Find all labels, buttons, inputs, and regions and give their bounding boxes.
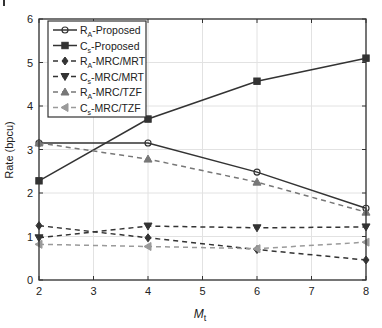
x-tick-label: 7 (308, 285, 314, 297)
y-tick-label: 0 (27, 274, 33, 286)
y-tick-label: 2 (27, 187, 33, 199)
legend: RA-ProposedCs-ProposedRA-MRC/MRTCs-MRC/M… (48, 21, 146, 117)
y-tick-label: 4 (27, 100, 33, 112)
y-axis-label: Rate (bpcu) (3, 121, 15, 178)
y-tick-label: 6 (27, 13, 33, 25)
y-tick-label: 5 (27, 57, 33, 69)
line-chart: 23456780123456 RA-ProposedCs-ProposedRA-… (0, 0, 382, 328)
y-tick-label: 3 (27, 144, 33, 156)
x-tick-label: 3 (90, 285, 96, 297)
x-tick-label: 2 (36, 285, 42, 297)
x-tick-label: 5 (199, 285, 205, 297)
x-axis-label: Mt (194, 307, 207, 323)
x-tick-label: 8 (363, 285, 369, 297)
x-tick-label: 6 (254, 285, 260, 297)
x-tick-label: 4 (145, 285, 151, 297)
y-tick-label: 1 (27, 231, 33, 243)
